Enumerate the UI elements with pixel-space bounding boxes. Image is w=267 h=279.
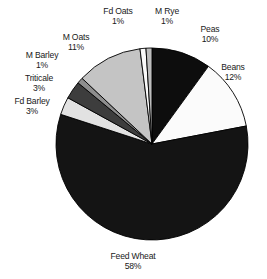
pie-label-value-feed-wheat: 58% — [110, 261, 155, 271]
pie-label-value-m-barley: 1% — [26, 60, 59, 70]
pie-label-beans: Beans12% — [221, 62, 245, 82]
pie-label-feed-wheat: Feed Wheat58% — [110, 251, 155, 271]
pie-label-value-beans: 12% — [221, 72, 245, 82]
pie-label-triticale: Triticale3% — [25, 73, 53, 93]
pie-chart-canvas — [0, 0, 267, 279]
pie-label-value-m-oats: 11% — [63, 42, 90, 52]
pie-label-fd-barley: Fd Barley3% — [14, 96, 49, 116]
pie-label-name-m-barley: M Barley — [26, 50, 59, 60]
pie-label-name-fd-oats: Fd Oats — [103, 6, 132, 16]
pie-label-value-m-rye: 1% — [155, 16, 179, 26]
pie-label-name-peas: Peas — [201, 24, 220, 34]
pie-chart: Fd Oats1%M Rye1%Peas10%M Oats11%Beans12%… — [0, 0, 267, 279]
pie-label-value-fd-barley: 3% — [14, 106, 49, 116]
pie-label-name-feed-wheat: Feed Wheat — [110, 251, 155, 261]
pie-label-name-triticale: Triticale — [25, 73, 53, 83]
pie-label-name-m-rye: M Rye — [155, 6, 179, 16]
pie-label-value-triticale: 3% — [25, 83, 53, 93]
pie-label-value-peas: 10% — [201, 34, 220, 44]
pie-label-m-rye: M Rye1% — [155, 6, 179, 26]
pie-label-fd-oats: Fd Oats1% — [103, 6, 132, 26]
pie-label-peas: Peas10% — [201, 24, 220, 44]
pie-label-name-beans: Beans — [221, 62, 245, 72]
pie-label-name-fd-barley: Fd Barley — [14, 96, 49, 106]
pie-label-name-m-oats: M Oats — [63, 32, 90, 42]
pie-label-value-fd-oats: 1% — [103, 16, 132, 26]
pie-label-m-barley: M Barley1% — [26, 50, 59, 70]
pie-label-m-oats: M Oats11% — [63, 32, 90, 52]
